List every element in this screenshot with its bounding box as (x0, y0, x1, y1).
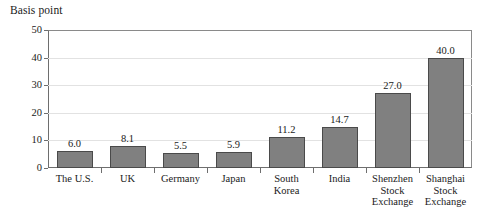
x-axis-category-label: UK (99, 173, 157, 185)
bar-value-label: 8.1 (103, 133, 153, 144)
bar (428, 58, 464, 168)
bar-value-label: 14.7 (315, 114, 365, 125)
x-axis-category-label: Japan (205, 173, 263, 185)
y-axis-tick-mark (44, 168, 48, 169)
y-axis-tick-label: 20 (16, 108, 42, 119)
bar-value-label: 40.0 (421, 45, 471, 56)
y-axis-title: Basis point (10, 4, 63, 16)
bar (216, 152, 252, 168)
bar (322, 127, 358, 168)
bar-value-label: 5.5 (156, 140, 206, 151)
bar (375, 93, 411, 168)
y-axis-tick-label: 0 (16, 163, 42, 174)
x-axis-category-label: Shanghai Stock Exchange (417, 173, 475, 208)
y-axis-tick-label: 50 (16, 25, 42, 36)
y-axis-tick-label: 10 (16, 135, 42, 146)
x-axis-category-label: India (311, 173, 369, 185)
bar-value-label: 6.0 (50, 138, 100, 149)
bar-value-label: 5.9 (209, 139, 259, 150)
bar-chart: Basis point 01020304050 6.08.15.55.911.2… (0, 0, 499, 224)
y-axis-tick-label: 30 (16, 80, 42, 91)
x-axis-category-label: Shenzhen Stock Exchange (364, 173, 422, 208)
x-axis-category-label: The U.S. (46, 173, 104, 185)
y-axis-tick-label: 40 (16, 53, 42, 64)
bar (163, 153, 199, 168)
bar (57, 151, 93, 168)
bar-value-label: 27.0 (368, 80, 418, 91)
x-axis-category-label: Germany (152, 173, 210, 185)
bar-series (48, 30, 472, 168)
bar (269, 137, 305, 168)
x-axis-category-label: South Korea (258, 173, 316, 196)
bar-value-label: 11.2 (262, 124, 312, 135)
bar (110, 146, 146, 168)
